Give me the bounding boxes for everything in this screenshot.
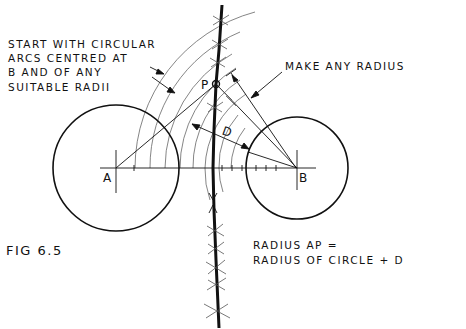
arcs-note-line-1: START WITH CIRCULAR xyxy=(8,38,156,50)
arcs-note-line-4: SUITABLE RADII xyxy=(8,81,111,93)
formula-line-1: RADIUS AP = xyxy=(253,239,338,251)
arcs-note-line-3: B AND OF ANY xyxy=(8,66,102,78)
construction-diagram: A B P D START WITH CIRCULAR ARCS CENTRED… xyxy=(0,0,466,329)
figure-caption: FIG 6.5 xyxy=(6,243,63,258)
label-p: P xyxy=(201,78,210,92)
label-b: B xyxy=(299,171,309,185)
arcs-note-leaders xyxy=(150,67,175,93)
baseline-ab xyxy=(100,150,316,193)
formula-line-2: RADIUS OF CIRCLE + D xyxy=(253,254,404,266)
label-a: A xyxy=(103,171,113,185)
bisector-line xyxy=(213,5,222,328)
label-d: D xyxy=(220,124,235,141)
arcs-note-line-2: ARCS CENTRED AT xyxy=(8,52,128,64)
radius-note: MAKE ANY RADIUS xyxy=(285,60,405,72)
